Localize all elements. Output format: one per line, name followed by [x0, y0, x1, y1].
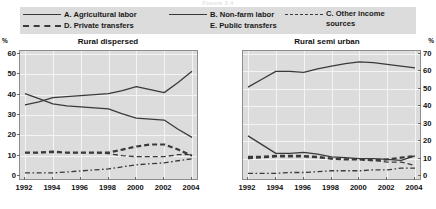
legend-label-c: C. Other income sources: [326, 9, 385, 28]
y-tick: [17, 134, 20, 135]
x-tick-label: 2004: [401, 183, 427, 192]
chart-legend: A. Agricultural labor D. Private transfe…: [20, 7, 416, 34]
y-tick: [418, 140, 421, 141]
legend-column-2: B. Non-farm labor E. Public transfers: [166, 9, 277, 31]
legend-label-e: E. Public transfers: [210, 21, 277, 31]
y-tick: [418, 105, 421, 106]
x-tick: [191, 177, 192, 180]
x-tick-label: 1998: [95, 183, 121, 192]
y-tick: [17, 73, 20, 74]
x-tick-label: 2002: [373, 183, 399, 192]
y-tick: [418, 158, 421, 159]
y-tick: [418, 175, 421, 176]
y-tick-label: 50: [423, 84, 436, 93]
legend-column-3: C. Other income sources: [282, 9, 385, 31]
legend-label-a: A. Agricultural labor: [64, 10, 137, 20]
y-tick: [418, 123, 421, 124]
series-line-b: [25, 71, 192, 105]
y-tick: [17, 114, 20, 115]
x-tick: [275, 177, 276, 180]
legend-swatch-dash-c: [282, 9, 326, 20]
x-tick-label: 1996: [290, 183, 316, 192]
x-tick: [247, 177, 248, 180]
y-tick-label: 30: [1, 110, 16, 119]
legend-label-b: B. Non-farm labor: [210, 10, 274, 20]
x-tick: [80, 177, 81, 180]
y-tick-label: 50: [1, 69, 16, 78]
y-tick-label: 10: [423, 154, 436, 163]
y-tick: [418, 88, 421, 89]
legend-item-e: E. Public transfers: [166, 20, 277, 31]
x-tick-label: 1998: [318, 183, 344, 192]
panel-title-left: Rural dispersed: [0, 37, 216, 46]
legend-swatch-dashdot-e: [166, 20, 210, 31]
legend-item-b: B. Non-farm labor: [166, 9, 277, 20]
y-tick: [17, 175, 20, 176]
y-tick: [418, 53, 421, 54]
legend-swatch-solid-a: [20, 9, 64, 20]
legend-swatch-dash-bold-d: [20, 20, 64, 31]
y-tick: [17, 53, 20, 54]
y-tick-label: 20: [1, 130, 16, 139]
y-tick-label: 40: [1, 90, 16, 99]
series-line-a: [25, 94, 192, 138]
y-tick: [17, 155, 20, 156]
series-layer: [243, 51, 420, 179]
y-tick-label: 60: [1, 49, 16, 58]
x-tick: [135, 177, 136, 180]
y-tick-label: 10: [1, 151, 16, 160]
series-line-e: [25, 159, 192, 173]
legend-column-1: A. Agricultural labor D. Private transfe…: [20, 9, 137, 31]
x-tick-label: 1994: [262, 183, 288, 192]
figure-title-cut: Figure 2.4: [0, 0, 436, 5]
x-tick: [386, 177, 387, 180]
series-line-b: [248, 62, 415, 87]
legend-swatch-solid-b: [166, 9, 210, 20]
y-tick: [418, 70, 421, 71]
x-tick: [414, 177, 415, 180]
y-tick-label: 40: [423, 101, 436, 110]
legend-item-a: A. Agricultural labor: [20, 9, 137, 20]
y-tick: [17, 94, 20, 95]
x-tick: [24, 177, 25, 180]
x-tick: [52, 177, 53, 180]
x-tick-label: 1996: [67, 183, 93, 192]
legend-item-c: C. Other income sources: [282, 9, 385, 31]
plot-area-right: [242, 50, 421, 180]
x-tick-label: 1994: [39, 183, 65, 192]
y-tick-label: 60: [423, 66, 436, 75]
x-tick-label: 2002: [150, 183, 176, 192]
plot-area-left: [19, 50, 198, 180]
y-tick-label: 0: [1, 171, 16, 180]
x-tick: [331, 177, 332, 180]
x-tick: [163, 177, 164, 180]
legend-label-d: D. Private transfers: [64, 21, 134, 31]
x-tick-label: 2000: [345, 183, 371, 192]
x-tick: [358, 177, 359, 180]
y-tick-label: 70: [423, 49, 436, 58]
panel-title-right: Rural semi urban: [218, 37, 436, 46]
x-tick-label: 1992: [11, 183, 37, 192]
x-tick: [303, 177, 304, 180]
x-tick-label: 1992: [234, 183, 260, 192]
x-tick-label: 2004: [178, 183, 204, 192]
series-line-e: [248, 168, 415, 173]
legend-item-d: D. Private transfers: [20, 20, 137, 31]
series-layer: [20, 51, 197, 179]
x-tick-label: 2000: [122, 183, 148, 192]
y-tick-label: 20: [423, 136, 436, 145]
y-tick-label: 30: [423, 119, 436, 128]
y-tick-label: 0: [423, 171, 436, 180]
x-tick: [108, 177, 109, 180]
